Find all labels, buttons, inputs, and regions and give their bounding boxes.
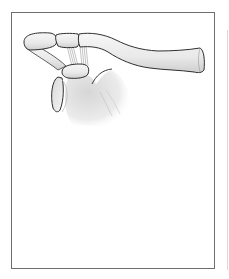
glenoid [52,77,67,112]
coracoclavicular-ligaments [67,46,88,66]
ac-joint-segment [56,33,80,47]
clavicle [78,33,204,72]
shoulder-anatomy-illustration [0,0,229,279]
coracoid-process [62,64,89,78]
